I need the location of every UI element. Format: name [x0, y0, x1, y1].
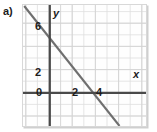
x-tick-label-2: 2 [72, 87, 78, 98]
x-tick-label-4: 4 [96, 87, 102, 98]
part-label: a) [3, 5, 13, 17]
figure-root: a) [0, 0, 157, 132]
y-tick-label-2: 2 [35, 67, 41, 78]
y-axis-label: y [53, 8, 59, 19]
origin-label: 0 [36, 87, 42, 98]
x-axis-label: x [133, 69, 139, 80]
coordinate-graph-panel: 6 2 0 2 4 y x [22, 4, 147, 127]
graph-plot-area [23, 5, 146, 126]
y-tick-label-6: 6 [35, 21, 41, 32]
